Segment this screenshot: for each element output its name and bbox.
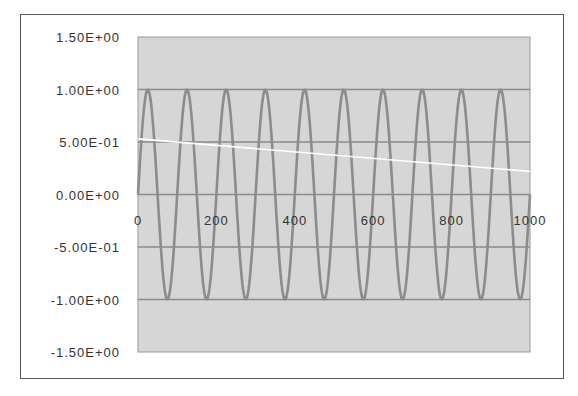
y-tick-label: -1.50E+00	[51, 345, 120, 360]
y-tick-label: 0.00E+00	[56, 188, 120, 203]
x-tick-label: 0	[134, 213, 142, 228]
y-tick-label: -5.00E-01	[54, 240, 120, 255]
x-tick-label: 200	[204, 213, 229, 228]
y-tick-label: 1.00E+00	[56, 83, 120, 98]
x-tick-label: 800	[439, 213, 464, 228]
x-tick-label: 1000	[514, 213, 547, 228]
x-tick-label: 400	[282, 213, 307, 228]
y-tick-label: 1.50E+00	[56, 30, 120, 45]
line-chart: 1.50E+001.00E+005.00E-010.00E+00-5.00E-0…	[0, 0, 578, 396]
y-tick-label: -1.00E+00	[51, 293, 120, 308]
y-tick-label: 5.00E-01	[59, 135, 120, 150]
y-axis-ticks: 1.50E+001.00E+005.00E-010.00E+00-5.00E-0…	[51, 30, 120, 360]
x-tick-label: 600	[361, 213, 386, 228]
